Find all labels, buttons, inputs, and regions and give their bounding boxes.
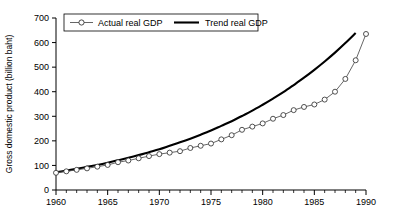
series-line-trend-real-gdp bbox=[56, 33, 356, 172]
data-point-marker bbox=[105, 162, 110, 167]
data-point-marker bbox=[157, 152, 162, 157]
y-tick-label: 700 bbox=[34, 13, 49, 23]
data-point-marker bbox=[95, 164, 100, 169]
x-tick-label: 1960 bbox=[46, 197, 66, 207]
chart-legend: Actual real GDP Trend real GDP bbox=[64, 14, 268, 31]
data-point-marker bbox=[219, 137, 224, 142]
data-point-marker bbox=[229, 133, 234, 138]
y-axis-title: Gross domestic product (billion baht) bbox=[4, 35, 14, 174]
data-point-marker bbox=[291, 108, 296, 113]
y-tick-label: 300 bbox=[34, 112, 49, 122]
data-point-marker bbox=[364, 31, 369, 36]
x-tick-label: 1990 bbox=[356, 197, 376, 207]
y-tick-label: 200 bbox=[34, 136, 49, 146]
data-point-marker bbox=[85, 166, 90, 171]
y-tick-label: 500 bbox=[34, 62, 49, 72]
chart-canvas: Gross domestic product (billion baht) 01… bbox=[0, 0, 396, 223]
data-point-marker bbox=[240, 127, 245, 132]
y-tick-label: 100 bbox=[34, 161, 49, 171]
data-point-marker bbox=[260, 121, 265, 126]
data-point-marker bbox=[178, 149, 183, 154]
data-point-marker bbox=[198, 143, 203, 148]
x-tick-label: 1985 bbox=[304, 197, 324, 207]
legend-marker-actual-icon bbox=[79, 20, 84, 25]
x-tick-label: 1970 bbox=[149, 197, 169, 207]
legend-label-trend-real-gdp: Trend real GDP bbox=[205, 18, 268, 28]
data-point-marker bbox=[64, 169, 69, 174]
data-point-marker bbox=[116, 160, 121, 165]
data-point-marker bbox=[250, 124, 255, 129]
data-point-marker bbox=[188, 145, 193, 150]
data-point-marker bbox=[74, 167, 79, 172]
data-point-marker bbox=[353, 58, 358, 63]
y-axis-tick-labels: 0100200300400500600700 bbox=[34, 13, 49, 195]
y-tick-label: 600 bbox=[34, 38, 49, 48]
x-axis-tick-labels: 1960196519701975198019851990 bbox=[46, 197, 376, 207]
data-point-marker bbox=[126, 158, 131, 163]
series-markers-actual-real-gdp bbox=[54, 31, 369, 175]
data-point-marker bbox=[312, 102, 317, 107]
x-tick-label: 1975 bbox=[201, 197, 221, 207]
data-point-marker bbox=[333, 89, 338, 94]
y-axis-ticks bbox=[52, 18, 56, 190]
data-point-marker bbox=[271, 116, 276, 121]
data-point-marker bbox=[136, 156, 141, 161]
gdp-chart-figure: Gross domestic product (billion baht) 01… bbox=[0, 0, 396, 223]
y-tick-label: 0 bbox=[44, 185, 49, 195]
data-point-marker bbox=[209, 141, 214, 146]
x-tick-label: 1965 bbox=[98, 197, 118, 207]
data-point-marker bbox=[302, 104, 307, 109]
data-point-marker bbox=[281, 113, 286, 118]
series-line-actual-real-gdp bbox=[56, 34, 366, 173]
y-tick-label: 400 bbox=[34, 87, 49, 97]
data-point-marker bbox=[167, 150, 172, 155]
legend-label-actual-real-gdp: Actual real GDP bbox=[98, 18, 163, 28]
data-point-marker bbox=[343, 76, 348, 81]
data-point-marker bbox=[322, 97, 327, 102]
x-tick-label: 1980 bbox=[253, 197, 273, 207]
data-point-marker bbox=[147, 154, 152, 159]
data-point-marker bbox=[54, 170, 59, 175]
x-axis-major-ticks bbox=[56, 190, 366, 195]
